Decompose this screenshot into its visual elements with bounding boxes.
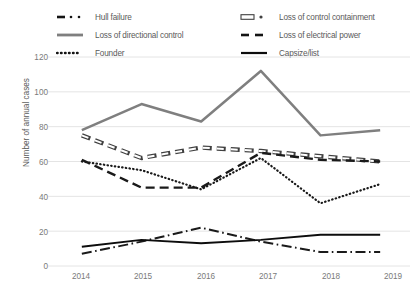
series-loss-of-directional-control (82, 71, 380, 135)
series-line (82, 71, 380, 135)
x-tick-2018: 2018 (322, 272, 340, 281)
plot-area (0, 0, 416, 302)
line-chart: Hull failure Loss of control containment… (0, 0, 416, 302)
x-tick-2014: 2014 (72, 272, 90, 281)
x-tick-2016: 2016 (197, 272, 215, 281)
series-loss-of-control-containment (82, 135, 380, 161)
x-tick-2019: 2019 (384, 272, 402, 281)
x-tick-2017: 2017 (259, 272, 277, 281)
x-tick-2015: 2015 (134, 272, 152, 281)
